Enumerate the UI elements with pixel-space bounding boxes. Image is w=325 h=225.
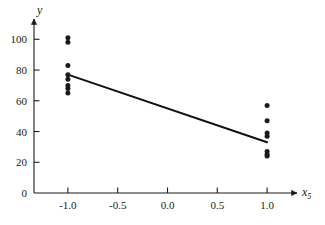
y-tick-label: 40	[0, 126, 27, 138]
fitted-regression-line	[68, 75, 267, 143]
x-tick-label: -1.0	[59, 199, 76, 211]
data-point	[65, 77, 70, 82]
x-tick-label: -0.5	[109, 199, 126, 211]
x-axis-title: x5	[302, 185, 311, 201]
data-point	[65, 72, 70, 77]
data-point	[65, 63, 70, 68]
y-tick-label: 100	[0, 33, 27, 45]
y-tick-label: 0	[0, 187, 27, 199]
data-point	[265, 134, 270, 139]
scatter-plot-figure: 020406080100 -1.0-0.50.00.51.0 y x5	[0, 0, 325, 225]
tick-marks-group	[34, 39, 267, 193]
data-points-group	[65, 35, 269, 158]
data-point	[265, 154, 270, 159]
plot-canvas	[0, 0, 325, 225]
data-point	[65, 91, 70, 96]
y-axis-arrowhead	[31, 19, 36, 25]
data-point	[265, 118, 270, 123]
x-axis-arrowhead	[292, 190, 298, 195]
data-point	[65, 40, 70, 45]
data-point	[65, 35, 70, 40]
y-tick-label: 60	[0, 95, 27, 107]
x-axis-subscript: 5	[307, 192, 311, 201]
regression-line	[68, 75, 267, 143]
x-tick-label: 1.0	[260, 199, 274, 211]
y-axis-title: y	[37, 3, 42, 18]
x-tick-label: 0.0	[161, 199, 175, 211]
y-tick-label: 80	[0, 64, 27, 76]
data-point	[65, 86, 70, 91]
data-point	[265, 103, 270, 108]
y-tick-label: 20	[0, 156, 27, 168]
x-tick-label: 0.5	[210, 199, 224, 211]
